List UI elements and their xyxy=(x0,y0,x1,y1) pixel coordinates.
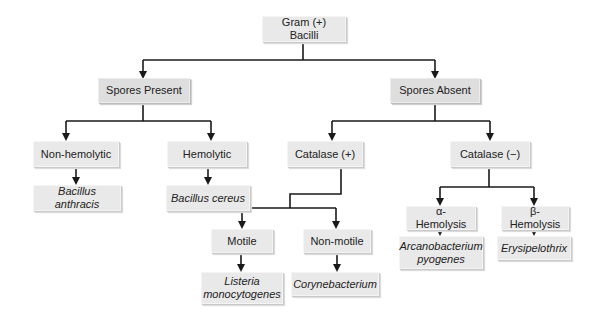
organism-bacillus-anthracis: Bacillus anthracis xyxy=(33,185,121,211)
node-label: Spores Absent xyxy=(399,84,471,97)
node-label: Non-motile xyxy=(310,235,363,248)
organism-label-line2: monocytogenes xyxy=(203,288,281,301)
organism-arcanobacterium-pyogenes: Arcanobacterium pyogenes xyxy=(399,236,483,269)
node-non-motile: Non-motile xyxy=(303,229,371,253)
node-spores-present: Spores Present xyxy=(98,78,190,103)
organism-label-line2: pyogenes xyxy=(417,253,465,266)
gram-positive-bacilli-flowchart: Gram (+) Bacilli Spores Present Spores A… xyxy=(0,0,602,326)
organism-label: Bacillus cereus xyxy=(171,192,245,205)
organism-corynebacterium: Corynebacterium xyxy=(291,272,379,296)
organism-bacillus-cereus: Bacillus cereus xyxy=(166,185,250,211)
node-label: Spores Present xyxy=(106,84,182,97)
node-spores-absent: Spores Absent xyxy=(390,78,480,103)
node-beta-hemolysis: β-Hemolysis xyxy=(501,206,569,230)
node-label: Motile xyxy=(227,235,256,248)
node-label: Gram (+) Bacilli xyxy=(267,16,341,42)
node-alpha-hemolysis: α-Hemolysis xyxy=(406,206,476,230)
node-motile: Motile xyxy=(211,229,273,253)
organism-erysipelothrix: Erysipelothrix xyxy=(497,236,571,260)
organism-label: Corynebacterium xyxy=(293,278,377,291)
node-label: Hemolytic xyxy=(183,148,231,161)
node-label: Catalase (+) xyxy=(295,148,355,161)
organism-label: Erysipelothrix xyxy=(501,242,567,255)
node-label: β-Hemolysis xyxy=(506,205,564,231)
node-hemolytic: Hemolytic xyxy=(167,141,247,167)
organism-label-line1: Listeria xyxy=(224,275,259,288)
organism-label-line1: Arcanobacterium xyxy=(399,240,482,253)
node-non-hemolytic: Non-hemolytic xyxy=(33,141,119,167)
node-label: Catalase (−) xyxy=(460,148,520,161)
node-gram-positive-bacilli: Gram (+) Bacilli xyxy=(262,16,346,42)
node-catalase-negative: Catalase (−) xyxy=(450,141,530,167)
node-label: α-Hemolysis xyxy=(411,205,471,231)
node-catalase-positive: Catalase (+) xyxy=(287,141,363,167)
node-label: Non-hemolytic xyxy=(41,148,111,161)
organism-label: Bacillus anthracis xyxy=(38,185,116,211)
organism-listeria-monocytogenes: Listeria monocytogenes xyxy=(201,272,283,304)
